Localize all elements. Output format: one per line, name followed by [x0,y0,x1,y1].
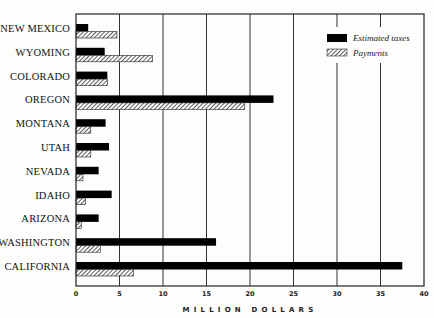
legend: Estimated taxes Payments [322,27,418,63]
category-label: COLORADO [10,71,70,82]
category-label: NEVADA [26,166,70,177]
bar-estimated-taxes [76,214,99,222]
bar-payments [76,103,245,110]
x-tick-label: 35 [376,290,386,298]
bar-payments [76,32,117,39]
bar-payments [76,79,107,86]
x-axis-label: MILLION DOLLARS [183,306,318,314]
bar-estimated-taxes [76,191,112,199]
bar-payments [76,55,153,62]
bar-payments [76,270,133,277]
x-tick-label: 20 [245,290,255,298]
bar-payments [76,246,100,253]
bar-estimated-taxes [76,48,105,56]
legend-label-payments: Payments [352,48,388,58]
legend-label-estimated-taxes: Estimated taxes [352,33,410,43]
bar-estimated-taxes [76,72,107,80]
x-tick-label: 30 [332,290,342,298]
x-tick-label: 40 [419,290,429,298]
category-labels: NEW MEXICOWYOMINGCOLORADOOREGONMONTANAUT… [0,23,70,272]
bar-payments [76,198,86,205]
x-tick-label: 5 [117,290,122,298]
category-label: UTAH [41,142,70,153]
category-label: WASHINGTON [0,237,70,248]
legend-swatch-payments [327,49,347,56]
category-label: CALIFORNIA [4,261,70,272]
bar-estimated-taxes [76,167,99,175]
category-label: WYOMING [16,47,71,58]
category-label: NEW MEXICO [0,23,70,34]
bar-estimated-taxes [76,95,273,103]
category-label: MONTANA [16,118,70,129]
bar-payments [76,127,91,134]
x-tick-label: 10 [158,290,168,298]
legend-swatch-estimated-taxes [327,34,347,42]
x-tick-label: 0 [74,290,79,298]
bar-estimated-taxes [76,238,216,246]
bar-estimated-taxes [76,262,402,270]
bar-payments [76,174,83,181]
bar-estimated-taxes [76,143,109,151]
category-label: ARIZONA [21,213,70,224]
x-tick-label: 15 [202,290,212,298]
bar-chart: NEW MEXICOWYOMINGCOLORADOOREGONMONTANAUT… [0,0,434,318]
category-label: OREGON [25,94,70,105]
x-tick-label: 25 [289,290,299,298]
x-tick-labels: 0510152025303540 [74,290,429,298]
bar-estimated-taxes [76,119,106,127]
category-label: IDAHO [35,190,70,201]
bar-estimated-taxes [76,24,88,32]
bar-payments [76,222,81,229]
bar-payments [76,151,91,158]
